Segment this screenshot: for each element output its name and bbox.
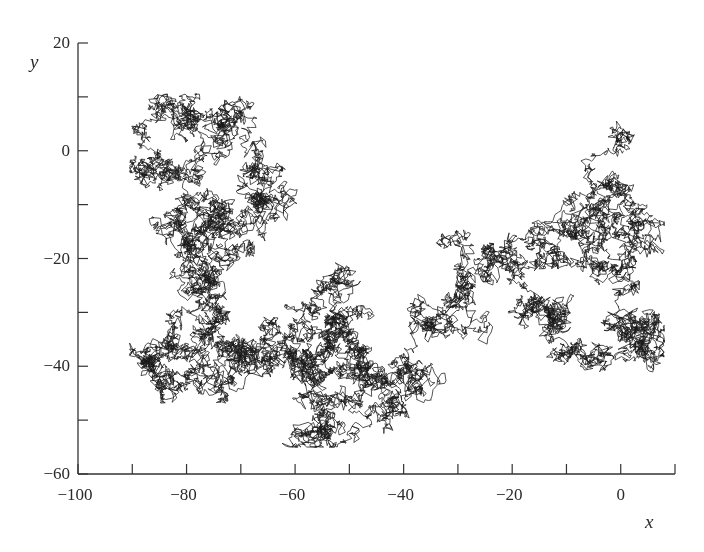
x-tick-label: −80 [170,486,197,503]
x-tick-label: −20 [496,486,523,503]
y-tick-label: −40 [43,357,70,374]
x-tick-label: −100 [57,486,92,503]
x-tick-label: −60 [279,486,306,503]
y-tick-label: 0 [62,142,71,159]
x-tick-label: 0 [616,486,625,503]
y-axis-ticks [78,43,88,474]
x-axis-ticks [78,464,675,474]
x-tick-label: −40 [387,486,414,503]
y-tick-label: −20 [43,250,70,267]
chart-axes [0,0,704,552]
y-tick-label: −60 [43,465,70,482]
y-tick-label: 20 [53,34,70,51]
y-axis-label: y [30,52,38,71]
x-axis-label: x [645,512,653,531]
